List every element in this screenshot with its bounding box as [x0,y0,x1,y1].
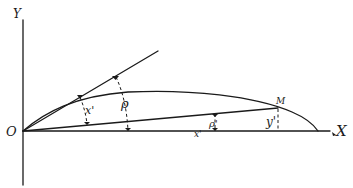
lower-ray [23,108,278,131]
label-origin: O [6,124,17,139]
label-y-prime: y' [265,115,276,129]
label-rho-prime: ρ' [208,118,218,129]
label-angle-x-prime: x' [85,104,94,117]
label-x-prime-lower: x' [194,129,202,139]
label-rho: ρ [120,96,129,111]
label-point-m: M [275,96,286,106]
arrow-head [212,114,218,117]
geometry-diagram: Y O X x' ρ M ρ' x' y' [0,0,353,188]
label-x-axis: X [335,122,348,140]
label-y-axis: Y [13,7,22,21]
